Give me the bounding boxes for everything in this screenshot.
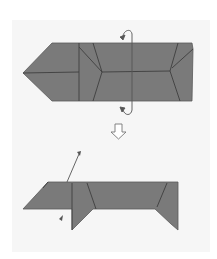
step-after-figure (23, 182, 178, 230)
next-step-arrow-icon (111, 124, 126, 139)
small-arrow-icon (59, 215, 63, 221)
step-before-figure (23, 43, 193, 101)
lift-arrow-icon (67, 151, 81, 182)
origami-diagram (0, 0, 217, 259)
